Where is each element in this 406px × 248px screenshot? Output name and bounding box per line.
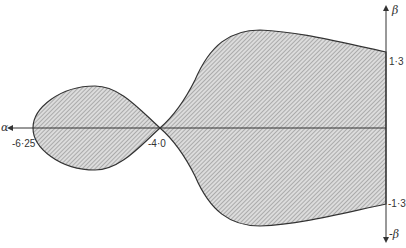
- alpha-axis-label: α: [1, 121, 9, 134]
- neg-beta-axis-label: -β: [389, 228, 399, 241]
- tick-label-neg-1-3: -1·3: [388, 198, 406, 209]
- tick-label-1-3: 1·3: [389, 56, 404, 67]
- tick-label-neg-4-0: -4·0: [148, 138, 166, 149]
- stability-diagram: α -6·25 -4·0 β 1·3 -1·3 -β: [0, 0, 406, 248]
- tick-label-neg-6-25: -6·25: [12, 138, 36, 149]
- beta-axis-label: β: [391, 4, 398, 17]
